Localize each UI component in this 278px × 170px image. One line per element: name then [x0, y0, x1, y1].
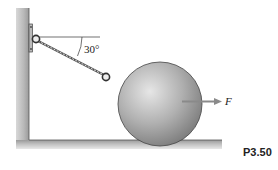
ball-ring	[102, 73, 109, 80]
force-label: F	[225, 95, 232, 107]
diagram-canvas	[0, 0, 278, 170]
ball	[118, 62, 202, 146]
floor	[16, 140, 222, 149]
wall	[16, 8, 29, 148]
angle-arc	[78, 37, 83, 56]
problem-number: P3.50	[243, 146, 272, 158]
wall-ring	[32, 35, 39, 42]
angle-label: 30°	[84, 43, 99, 55]
